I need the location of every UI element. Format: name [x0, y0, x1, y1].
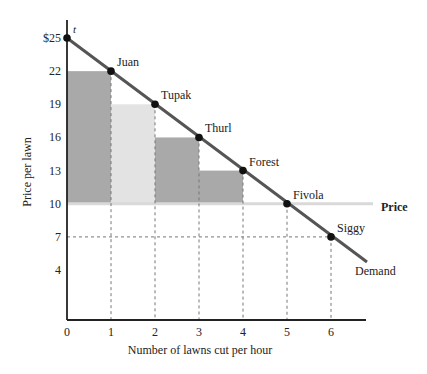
- buyer-point: [151, 101, 159, 109]
- y-tick-label: 7: [55, 230, 61, 244]
- demand-label: Demand: [355, 264, 396, 278]
- y-tick-label: 4: [55, 263, 61, 277]
- buyer-point: [283, 200, 291, 208]
- x-tick-label: 1: [108, 325, 114, 339]
- y-axis-title: Price per lawn: [20, 137, 34, 206]
- buyer-label: Tupak: [161, 88, 191, 102]
- price-label: Price: [381, 200, 408, 214]
- surplus-bar: [199, 171, 243, 204]
- x-tick-label: 5: [284, 325, 290, 339]
- surplus-bar: [111, 104, 155, 203]
- buyer-label: Thurl: [205, 121, 232, 135]
- y-tick-label: 13: [49, 164, 61, 178]
- surplus-bar: [67, 71, 111, 204]
- x-tick-label: 6: [328, 325, 334, 339]
- surplus-bar: [155, 137, 199, 203]
- buyer-point: [107, 67, 115, 75]
- y-tick-label: 22: [49, 64, 61, 78]
- x-tick-label: 3: [196, 325, 202, 339]
- x-tick-label: 2: [152, 325, 158, 339]
- x-tick-label: 0: [64, 325, 70, 339]
- buyer-point: [327, 233, 335, 241]
- buyer-label: Forest: [249, 155, 280, 169]
- buyer-label: Juan: [117, 55, 139, 69]
- origin-label: t: [73, 23, 77, 35]
- buyer-label: Fivola: [293, 188, 324, 202]
- y-tick-label: 16: [49, 130, 61, 144]
- buyer-label: Siggy: [337, 221, 365, 235]
- consumer-surplus-chart: JuanTupakThurlForestFivolaSiggyt$2522191…: [0, 0, 427, 374]
- origin-point: [63, 34, 71, 42]
- x-tick-label: 4: [240, 325, 246, 339]
- y-tick-label: 19: [49, 97, 61, 111]
- buyer-point: [195, 134, 203, 142]
- y-tick-label: $25: [43, 31, 61, 45]
- buyer-point: [239, 167, 247, 175]
- y-tick-label: 10: [49, 197, 61, 211]
- x-axis-title: Number of lawns cut per hour: [128, 343, 272, 357]
